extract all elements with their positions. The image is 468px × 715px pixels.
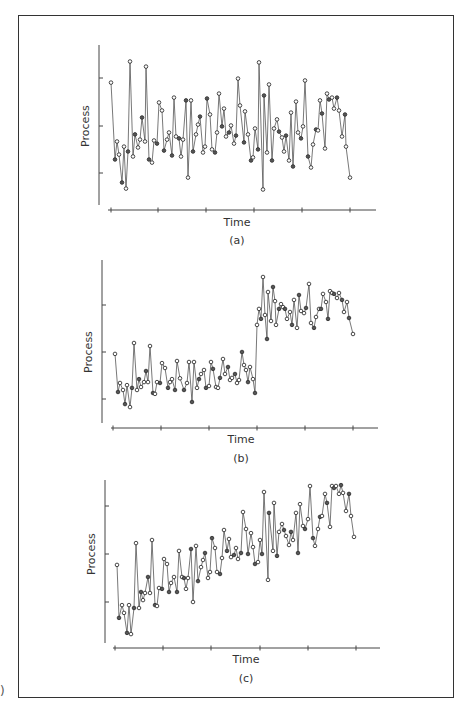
data-point bbox=[344, 509, 348, 513]
panel-caption: (c) bbox=[239, 672, 254, 685]
data-point bbox=[184, 587, 188, 591]
data-point bbox=[175, 590, 179, 594]
data-point bbox=[260, 552, 264, 556]
data-point bbox=[167, 590, 171, 594]
data-point bbox=[129, 632, 133, 636]
data-point bbox=[280, 522, 284, 526]
data-point bbox=[311, 536, 315, 540]
data-point bbox=[210, 536, 214, 540]
data-point bbox=[169, 581, 173, 585]
data-point bbox=[341, 491, 345, 495]
data-point bbox=[162, 557, 166, 561]
data-point bbox=[222, 528, 226, 532]
data-point bbox=[165, 562, 169, 566]
data-point bbox=[291, 538, 295, 542]
data-point bbox=[298, 502, 302, 506]
data-point bbox=[282, 528, 286, 532]
data-point bbox=[239, 551, 243, 555]
data-point bbox=[213, 546, 217, 550]
data-point bbox=[262, 490, 266, 494]
data-point bbox=[289, 530, 293, 534]
series-line bbox=[117, 485, 354, 634]
data-point bbox=[137, 606, 141, 610]
data-point bbox=[275, 554, 279, 558]
data-point bbox=[182, 576, 186, 580]
data-point bbox=[134, 541, 138, 545]
data-point bbox=[347, 492, 351, 496]
data-point bbox=[120, 603, 124, 607]
chart-panel-c: ProcessTime(c) bbox=[0, 0, 468, 715]
data-point bbox=[349, 514, 353, 518]
data-point bbox=[225, 549, 229, 553]
data-point bbox=[199, 565, 203, 569]
data-point bbox=[256, 560, 260, 564]
data-point bbox=[117, 616, 121, 620]
data-point bbox=[328, 525, 332, 529]
data-point bbox=[246, 552, 250, 556]
data-point bbox=[218, 572, 222, 576]
data-point bbox=[236, 557, 240, 561]
data-point bbox=[150, 538, 154, 542]
data-point bbox=[227, 537, 231, 541]
data-point bbox=[208, 570, 212, 574]
data-point bbox=[296, 551, 300, 555]
data-point bbox=[313, 544, 317, 548]
data-point bbox=[125, 631, 129, 635]
data-point bbox=[294, 511, 298, 515]
y-axis-label: Process bbox=[85, 533, 98, 575]
data-point bbox=[127, 603, 131, 607]
data-point bbox=[196, 579, 200, 583]
data-point bbox=[234, 546, 238, 550]
data-point bbox=[352, 535, 356, 539]
data-point bbox=[139, 590, 143, 594]
data-point bbox=[306, 517, 310, 521]
data-point bbox=[337, 492, 341, 496]
data-point bbox=[160, 587, 164, 591]
data-point bbox=[339, 483, 343, 487]
data-point bbox=[316, 527, 320, 531]
data-point bbox=[244, 527, 248, 531]
data-point bbox=[284, 534, 288, 538]
data-point bbox=[148, 591, 152, 595]
data-point bbox=[203, 551, 207, 555]
data-point bbox=[232, 553, 236, 557]
data-point bbox=[325, 501, 329, 505]
data-point bbox=[277, 530, 281, 534]
data-point bbox=[172, 575, 176, 579]
data-point bbox=[177, 549, 181, 553]
data-point bbox=[206, 576, 210, 580]
data-point bbox=[122, 611, 126, 615]
data-point bbox=[320, 514, 324, 518]
data-point bbox=[267, 511, 271, 515]
data-point bbox=[251, 545, 255, 549]
x-axis-label: Time bbox=[232, 653, 260, 666]
data-point bbox=[249, 531, 253, 535]
data-point bbox=[287, 543, 291, 547]
data-point bbox=[115, 563, 119, 567]
data-point bbox=[143, 591, 147, 595]
data-point bbox=[334, 484, 338, 488]
data-point bbox=[323, 492, 327, 496]
data-point bbox=[191, 600, 195, 604]
data-point bbox=[303, 527, 307, 531]
data-point bbox=[220, 556, 224, 560]
data-point bbox=[186, 576, 190, 580]
data-point bbox=[194, 544, 198, 548]
data-point bbox=[201, 558, 205, 562]
data-point bbox=[258, 538, 262, 542]
data-point bbox=[132, 606, 136, 610]
data-point bbox=[272, 501, 276, 505]
data-point bbox=[266, 578, 270, 582]
data-point bbox=[308, 484, 312, 488]
data-point bbox=[141, 598, 145, 602]
data-point bbox=[189, 547, 193, 551]
data-point bbox=[271, 549, 275, 553]
data-point bbox=[155, 604, 159, 608]
data-point bbox=[146, 575, 150, 579]
data-point bbox=[241, 510, 245, 514]
